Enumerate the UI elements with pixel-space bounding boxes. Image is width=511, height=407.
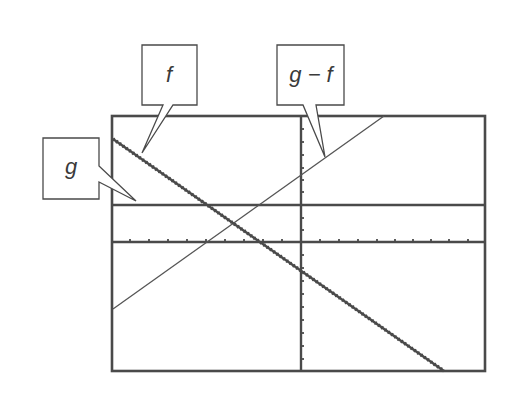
callout-g-minus-f-label: g − f [289, 62, 335, 87]
calculator-graph: f g − f g [0, 0, 511, 407]
graph-window-frame [112, 116, 485, 371]
callout-g-label: g [65, 154, 78, 179]
